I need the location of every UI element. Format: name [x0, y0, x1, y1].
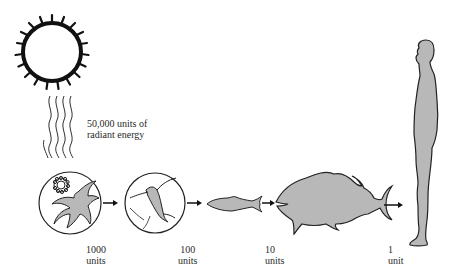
sun-icon: [16, 15, 89, 89]
source-energy-line2: radiant energy: [87, 129, 147, 140]
arrow-icon: [384, 202, 403, 208]
stage-value: 1: [388, 244, 404, 255]
stage-unit: unit: [388, 255, 404, 266]
stage-unit: units: [178, 255, 197, 266]
stage-label-large-fish: 10 units: [265, 244, 284, 266]
large-fish-icon: [276, 172, 392, 234]
arrow-icon: [262, 200, 275, 206]
human-icon: [410, 40, 438, 246]
arrow-icon: [103, 200, 118, 206]
source-energy-label: 50,000 units of radiant energy: [87, 118, 147, 140]
stage-unit: units: [86, 255, 106, 266]
stage-label-phytoplankton: 1000 units: [86, 244, 106, 266]
small-fish-icon: [207, 196, 262, 212]
arrow-icon: [187, 200, 202, 206]
zooplankton-icon: [125, 173, 185, 233]
source-energy-line1: 50,000 units of: [87, 118, 147, 129]
stage-value: 100: [178, 244, 197, 255]
stage-value: 1000: [86, 244, 106, 255]
stage-unit: units: [265, 255, 284, 266]
radiant-energy-waves-icon: [43, 96, 73, 158]
stage-label-human: 1 unit: [388, 244, 404, 266]
food-chain-diagram: [0, 0, 455, 278]
stage-label-zooplankton: 100 units: [178, 244, 197, 266]
phytoplankton-icon: [39, 172, 101, 234]
stage-value: 10: [265, 244, 284, 255]
